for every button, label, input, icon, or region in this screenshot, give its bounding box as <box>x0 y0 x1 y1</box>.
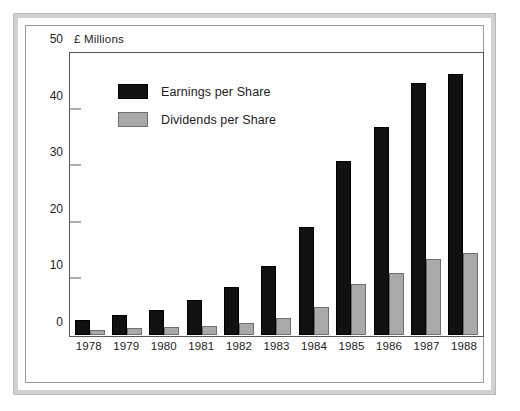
legend-swatch-dividends <box>118 112 148 127</box>
bar-dividends-1988 <box>463 253 478 335</box>
bar-earnings-1978 <box>75 320 90 335</box>
bar-earnings-1984 <box>299 227 314 335</box>
bar-earnings-1980 <box>149 310 164 335</box>
bar-chart: £ Millions 01020304050 19781979198019811… <box>26 26 483 382</box>
x-tick-label: 1988 <box>451 340 477 352</box>
bar-dividends-1983 <box>276 318 291 335</box>
bar-dividends-1978 <box>90 330 105 335</box>
decorative-inner-frame: £ Millions 01020304050 19781979198019811… <box>25 25 484 383</box>
y-tick-label: 10 <box>50 258 63 272</box>
decorative-outer-frame: £ Millions 01020304050 19781979198019811… <box>14 14 495 394</box>
x-tick-label: 1986 <box>376 340 402 352</box>
bar-dividends-1981 <box>202 326 217 335</box>
bar-earnings-1983 <box>261 266 276 335</box>
bar-earnings-1979 <box>112 315 127 335</box>
bar-dividends-1984 <box>314 307 329 335</box>
bar-earnings-1986 <box>374 127 389 335</box>
x-tick-label: 1984 <box>301 340 327 352</box>
bar-dividends-1980 <box>164 327 179 335</box>
bar-dividends-1982 <box>239 323 254 335</box>
legend-item: Dividends per Share <box>118 112 276 127</box>
chart-page: £ Millions 01020304050 19781979198019811… <box>0 0 520 411</box>
y-axis-title: £ Millions <box>74 33 124 45</box>
x-axis-tick-labels: 1978197919801981198219831984198519861987… <box>70 340 483 352</box>
x-tick-label: 1979 <box>113 340 139 352</box>
bar-earnings-1985 <box>336 161 351 335</box>
x-tick-label: 1987 <box>414 340 440 352</box>
bar-group <box>374 54 404 335</box>
bar-earnings-1982 <box>224 287 239 335</box>
y-tick-label: 30 <box>50 145 63 159</box>
bar-earnings-1987 <box>411 83 426 335</box>
x-tick-label: 1978 <box>76 340 102 352</box>
legend-label: Earnings per Share <box>161 85 271 99</box>
bar-dividends-1979 <box>127 328 142 335</box>
bar-dividends-1985 <box>351 284 366 335</box>
x-tick-label: 1981 <box>188 340 214 352</box>
y-tick-label: 0 <box>56 315 63 329</box>
y-tick-label: 20 <box>50 202 63 216</box>
legend-item: Earnings per Share <box>118 84 276 99</box>
legend-label: Dividends per Share <box>161 113 276 127</box>
bar-dividends-1987 <box>426 259 441 335</box>
bar-group <box>448 54 478 335</box>
y-tick-label: 40 <box>50 89 63 103</box>
bar-group <box>336 54 366 335</box>
chart-legend: Earnings per ShareDividends per Share <box>118 84 276 140</box>
x-tick-label: 1983 <box>263 340 289 352</box>
bar-dividends-1986 <box>389 273 404 335</box>
x-tick-label: 1985 <box>338 340 364 352</box>
y-tick-label: 50 <box>50 32 63 46</box>
bar-group <box>411 54 441 335</box>
bar-group <box>75 54 105 335</box>
bar-group <box>299 54 329 335</box>
x-tick-label: 1982 <box>226 340 252 352</box>
bar-earnings-1981 <box>187 300 202 335</box>
legend-swatch-earnings <box>118 84 148 99</box>
bar-earnings-1988 <box>448 74 463 335</box>
x-tick-label: 1980 <box>151 340 177 352</box>
